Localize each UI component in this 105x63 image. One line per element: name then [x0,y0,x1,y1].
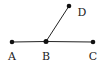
label-a: A [7,50,17,63]
label-c: C [89,50,97,63]
geometry-diagram: A B C D [0,0,105,63]
point-b [44,39,49,44]
label-b: B [42,50,50,63]
label-d: D [78,6,87,19]
segment-bc [46,42,93,43]
segment-ab [12,42,46,43]
point-c [91,40,96,45]
point-d [67,4,72,9]
segment-bd [46,6,69,42]
point-a [10,40,15,45]
